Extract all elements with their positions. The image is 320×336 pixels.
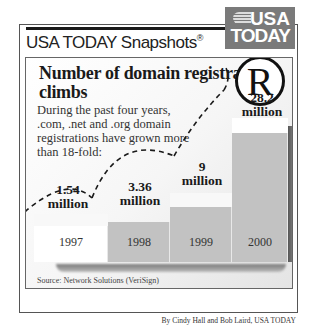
value-label-1997: 1.54million [38,183,98,211]
unit-1998: million [120,193,161,208]
bar-top-1997 [34,214,108,226]
bar-top-2000 [232,118,288,133]
series-title-text: USA TODAY Snapshots [26,33,197,52]
year-label-1998: 1998 [108,235,170,250]
value-label-2000: 28.2million [234,91,290,119]
year-label-1997: 1997 [34,235,108,250]
top-rule [26,27,232,30]
bar-shadow [56,264,286,272]
value-label-1998: 3.36million [110,180,170,208]
value-2000: 28.2 [250,90,274,105]
value-1997: 1.54 [56,182,80,197]
bar-side-2000 [288,126,293,262]
logo-line-1: USA [225,7,290,27]
bar-top-1999 [170,193,232,207]
logo-line-2: TODAY [225,27,290,44]
year-label-1999: 1999 [170,235,232,250]
unit-1999: million [182,173,223,188]
value-label-1999: 9million [172,160,232,188]
registered-mark: ® [197,33,203,43]
value-1999: 9 [199,159,206,174]
source-note: Source: Network Solutions (VeriSign) [37,276,159,285]
year-label-2000: 2000 [232,235,288,250]
unit-2000: million [242,104,283,119]
series-title: USA TODAY Snapshots® [26,33,203,53]
unit-1997: million [48,196,89,211]
usa-today-logo: USA TODAY [225,7,295,49]
value-1998: 3.36 [128,179,152,194]
chart-panel: Number of domain registrations climbs Du… [25,57,293,289]
byline-credit: By Cindy Hall and Bob Laird, USA TODAY [162,316,296,325]
